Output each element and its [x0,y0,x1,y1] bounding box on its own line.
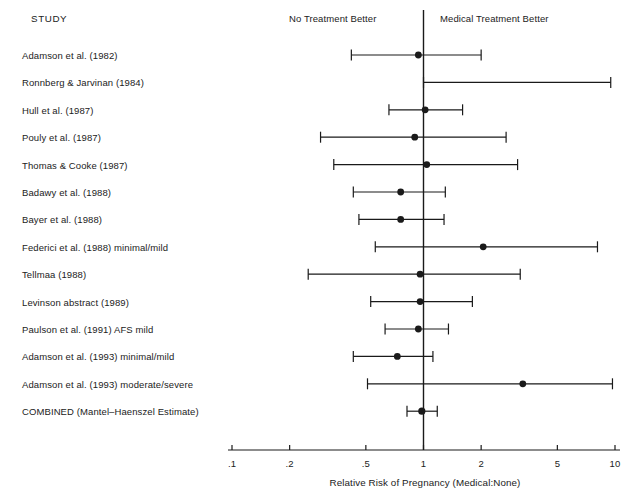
point-estimate [417,271,424,278]
forest-plot-canvas [0,0,628,497]
point-estimate [397,189,404,196]
point-estimate [480,243,487,250]
point-estimate [411,134,418,141]
point-estimate [423,161,430,168]
point-estimate [415,326,422,333]
forest-plot: STUDY No Treatment Better Medical Treatm… [0,0,628,497]
point-estimate [415,52,422,59]
point-estimate [397,216,404,223]
point-estimate [422,106,429,113]
point-estimate [394,353,401,360]
point-estimate [519,380,526,387]
point-estimate [417,298,424,305]
point-estimate-combined [418,408,425,415]
